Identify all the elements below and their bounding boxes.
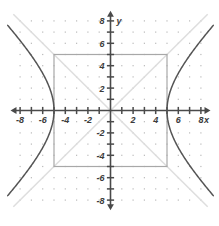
grid-dot [189, 132, 190, 133]
grid-dot [76, 99, 77, 100]
grid-dot [76, 121, 77, 122]
y-tick-label: -8 [96, 196, 104, 206]
x-axis-arrow-right [205, 107, 211, 114]
grid-dot [155, 200, 156, 201]
grid-dot [65, 132, 66, 133]
grid-dot [121, 65, 122, 66]
grid-dot [178, 99, 179, 100]
grid-dot [53, 20, 54, 21]
grid-dot [121, 32, 122, 33]
grid-dot [178, 54, 179, 55]
grid-dot [31, 121, 32, 122]
grid-dot [65, 76, 66, 77]
grid-dot [200, 166, 201, 167]
y-tick-label: -6 [96, 173, 105, 183]
grid-dot [20, 132, 21, 133]
grid-dot [189, 20, 190, 21]
grid-dot [31, 76, 32, 77]
x-tick-label: 4 [152, 115, 158, 125]
y-axis-label: y [116, 16, 123, 26]
grid-dot [178, 188, 179, 189]
grid-dot [53, 43, 54, 44]
grid-dot [144, 20, 145, 21]
grid-dot [20, 166, 21, 167]
grid-dot [121, 155, 122, 156]
grid-dot [99, 76, 100, 77]
grid-dot [87, 99, 88, 100]
grid-dot [178, 65, 179, 66]
grid-dot [76, 132, 77, 133]
grid-dot [144, 155, 145, 156]
grid-dot [31, 43, 32, 44]
grid-dot [133, 144, 134, 145]
grid-dot [121, 76, 122, 77]
grid-dot [20, 54, 21, 55]
grid-dot [42, 99, 43, 100]
y-tick-label: -4 [96, 151, 104, 161]
grid-dot [200, 188, 201, 189]
grid-dot [65, 88, 66, 89]
grid-dot [189, 43, 190, 44]
grid-dot [20, 144, 21, 145]
grid-dot [87, 200, 88, 201]
grid-dot [133, 43, 134, 44]
grid-dot [133, 200, 134, 201]
grid-dot [20, 99, 21, 100]
grid-dot [76, 43, 77, 44]
grid-dot [99, 188, 100, 189]
grid-dot [178, 88, 179, 89]
grid-dot [87, 144, 88, 145]
grid-dot [121, 88, 122, 89]
grid-dot [166, 200, 167, 201]
grid-dot [155, 43, 156, 44]
grid-dot [53, 32, 54, 33]
grid-dot [155, 132, 156, 133]
grid-dot [31, 200, 32, 201]
grid-dot [144, 121, 145, 122]
grid-dot [200, 65, 201, 66]
grid-dot [42, 166, 43, 167]
grid-dot [144, 32, 145, 33]
grid-dot [133, 20, 134, 21]
y-axis-arrow-up [107, 11, 114, 17]
grid-dot [76, 32, 77, 33]
grid-dot [65, 43, 66, 44]
grid-dot [53, 188, 54, 189]
grid-dot [178, 144, 179, 145]
grid-dot [178, 200, 179, 201]
x-tick-label: -4 [61, 115, 69, 125]
grid-dot [178, 32, 179, 33]
x-tick-label: 6 [176, 115, 182, 125]
grid-dot [166, 20, 167, 21]
y-tick-label: 8 [99, 16, 104, 26]
grid-dot [99, 32, 100, 33]
grid-dot [42, 20, 43, 21]
grid-dot [31, 88, 32, 89]
grid-dot [20, 76, 21, 77]
grid-dot [42, 200, 43, 201]
grid-dot [42, 65, 43, 66]
grid-dot [121, 177, 122, 178]
grid-dot [31, 132, 32, 133]
grid-dot [42, 32, 43, 33]
grid-dot [166, 188, 167, 189]
grid-dot [121, 132, 122, 133]
grid-dot [144, 65, 145, 66]
grid-dot [189, 177, 190, 178]
grid-dot [31, 20, 32, 21]
y-tick-label: 6 [99, 39, 105, 49]
grid-dot [87, 65, 88, 66]
grid-dot [76, 65, 77, 66]
grid-dot [155, 88, 156, 89]
grid-dot [20, 188, 21, 189]
grid-dot [200, 177, 201, 178]
grid-dot [87, 20, 88, 21]
grid-dot [200, 144, 201, 145]
grid-dot [133, 32, 134, 33]
grid-dot [20, 155, 21, 156]
grid-dot [53, 200, 54, 201]
grid-dot [144, 177, 145, 178]
grid-dot [76, 177, 77, 178]
grid-dot [31, 99, 32, 100]
grid-dot [65, 20, 66, 21]
